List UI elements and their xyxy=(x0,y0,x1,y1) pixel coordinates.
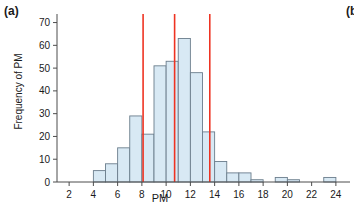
x-tick-label: 18 xyxy=(258,189,270,200)
histogram-bar xyxy=(154,66,166,182)
x-tick-label: 10 xyxy=(161,189,173,200)
figure-panel-a: (a) (b Frequency of PM PM 01020304050607… xyxy=(0,0,355,209)
x-tick-label: 6 xyxy=(115,189,121,200)
histogram-bar xyxy=(106,164,118,182)
y-tick-label: 40 xyxy=(39,85,51,96)
histogram-bar xyxy=(190,73,202,182)
histogram-bar xyxy=(118,148,130,182)
x-tick-label: 22 xyxy=(306,189,318,200)
y-axis-ticks: 010203040506070 xyxy=(39,17,57,187)
y-tick-label: 70 xyxy=(39,17,51,28)
x-tick-label: 24 xyxy=(330,189,342,200)
histogram-bar xyxy=(227,173,239,182)
histogram-bar xyxy=(324,177,336,182)
histogram-bars xyxy=(93,39,336,183)
y-tick-label: 10 xyxy=(39,154,51,165)
y-tick-label: 50 xyxy=(39,63,51,74)
histogram-bar xyxy=(178,39,190,183)
x-tick-label: 4 xyxy=(91,189,97,200)
x-tick-label: 16 xyxy=(233,189,245,200)
histogram-bar xyxy=(275,177,287,182)
histogram-bar xyxy=(215,162,227,183)
y-tick-label: 20 xyxy=(39,131,51,142)
x-tick-label: 12 xyxy=(185,189,197,200)
histogram-bar xyxy=(166,61,178,182)
y-tick-label: 60 xyxy=(39,40,51,51)
y-tick-label: 0 xyxy=(44,177,50,188)
histogram-bar xyxy=(93,171,105,182)
histogram-plot: 01020304050607024681012141618202224 xyxy=(0,0,355,209)
histogram-bar xyxy=(203,132,215,182)
y-tick-label: 30 xyxy=(39,108,51,119)
histogram-bar xyxy=(239,173,251,182)
x-tick-label: 14 xyxy=(209,189,221,200)
x-tick-label: 2 xyxy=(66,189,72,200)
x-axis-ticks: 24681012141618202224 xyxy=(66,182,342,200)
histogram-bar xyxy=(130,116,142,182)
x-tick-label: 20 xyxy=(282,189,294,200)
x-tick-label: 8 xyxy=(139,189,145,200)
